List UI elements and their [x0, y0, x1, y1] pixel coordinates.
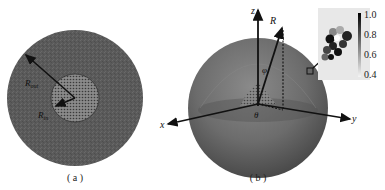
y-axis-label: y [351, 113, 357, 124]
colorbar [358, 13, 361, 77]
panel-a: Rout Rin ( a ) [7, 30, 143, 184]
caption-b: ( b ) [250, 172, 267, 184]
colorbar-tick: 0.8 [364, 29, 377, 40]
x-axis-label: x [159, 119, 165, 130]
colorbar-tick: 0.6 [364, 49, 377, 60]
colorbar-tick: 0.4 [364, 69, 377, 80]
azimuth-angle-label: θ [254, 110, 259, 120]
radius-label: R [269, 15, 276, 26]
z-axis-label: z [250, 5, 255, 16]
figure: Rout Rin ( a ) z x y R φ θ [0, 0, 385, 190]
caption-a: ( a ) [67, 172, 83, 184]
panel-b: z x y R φ θ 1.0 0.8 0.6 0.4 ( b ) [159, 5, 377, 184]
polar-angle-label: φ [262, 65, 267, 75]
colorbar-tick: 1.0 [364, 9, 377, 20]
